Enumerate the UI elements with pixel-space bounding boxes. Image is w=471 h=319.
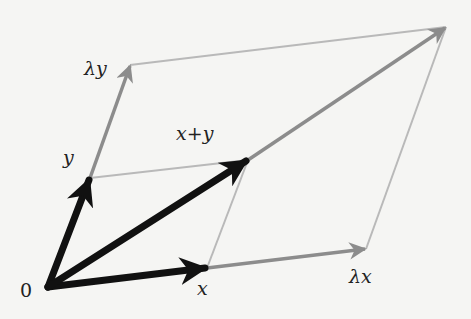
label-origin: 0 <box>20 281 32 300</box>
label-x-plus-y: x+y <box>176 124 213 143</box>
vector-lambda-y <box>90 66 130 178</box>
label-lambda-x: λx <box>349 267 372 286</box>
vector-lambda-x <box>207 249 365 268</box>
label-x: x <box>197 279 208 298</box>
label-y: y <box>63 148 74 167</box>
label-lambda-y: λy <box>84 59 107 78</box>
guide-lambdax-to-lambdaxy <box>366 27 446 249</box>
